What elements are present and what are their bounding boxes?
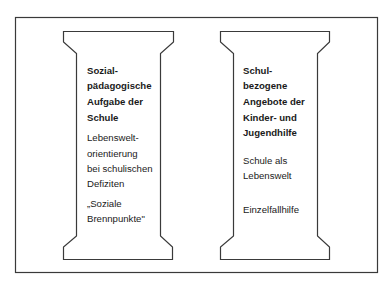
pillar-right-body-line: Lebenswelt bbox=[243, 170, 292, 182]
pillar-right-body-line: Schule als bbox=[243, 155, 287, 167]
pillar-left-body-line: Brennpunkte" bbox=[87, 213, 145, 225]
outer-frame bbox=[16, 18, 378, 273]
pillar-left-heading-line: Aufgabe der bbox=[87, 96, 143, 108]
pillar-left-outline bbox=[64, 32, 174, 260]
pillar-left-heading-line: Schule bbox=[87, 112, 118, 124]
pillar-left-body-line: orientierung bbox=[87, 148, 138, 160]
pillar-right-heading-line: bezogene bbox=[243, 80, 287, 92]
pillar-right-heading-line: Angebote der bbox=[243, 96, 305, 108]
pillar-right-heading-line: Jugendhilfe bbox=[243, 127, 297, 139]
diagram-shapes bbox=[0, 0, 392, 284]
pillar-right-outline bbox=[221, 32, 330, 260]
pillar-right-heading-line: Kinder- und bbox=[243, 112, 297, 124]
pillar-left-body-line: Defiziten bbox=[87, 178, 124, 190]
pillar-left-heading-line: pädagogische bbox=[87, 80, 152, 92]
pillar-right-body-line: Einzelfallhilfe bbox=[243, 204, 299, 216]
pillar-right-heading-line: Schul- bbox=[243, 65, 272, 77]
pillar-left-body-line: „Soziale bbox=[87, 198, 122, 210]
pillar-left-body-line: Lebenswelt- bbox=[87, 132, 139, 144]
pillar-left-body-line: bei schulischen bbox=[87, 163, 153, 175]
pillar-left-heading-line: Sozial- bbox=[87, 65, 118, 77]
